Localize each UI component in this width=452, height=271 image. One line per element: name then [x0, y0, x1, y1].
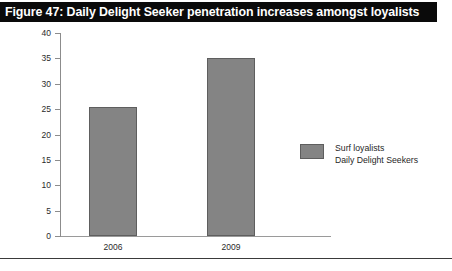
x-axis-label-2009: 2009: [201, 242, 261, 252]
y-axis-tick-label: 35: [0, 53, 51, 63]
figure-title-banner: Figure 47: Daily Delight Seeker penetrat…: [0, 2, 437, 22]
x-axis-line: [60, 236, 331, 237]
legend-swatch-surf-loyalists: [300, 144, 324, 159]
y-axis-tick: [55, 211, 61, 212]
y-axis-tick-label: 25: [0, 104, 51, 114]
y-axis-tick-label: 5: [0, 206, 51, 216]
y-axis-tick: [55, 160, 61, 161]
y-axis-tick-label: 40: [0, 28, 51, 38]
page-title: Figure 47: Daily Delight Seeker penetrat…: [0, 5, 419, 19]
bar-chart: 0510152025303540 20062009 Surf loyalists…: [0, 22, 452, 247]
legend-label-group: Surf loyalists Daily Delight Seekers: [335, 143, 418, 166]
bar-2009: [207, 58, 255, 236]
y-axis-tick-label: 20: [0, 130, 51, 140]
y-axis-tick: [55, 33, 61, 34]
x-axis-label-2006: 2006: [83, 242, 143, 252]
y-axis-tick-label: 15: [0, 155, 51, 165]
footer-divider: [0, 258, 452, 259]
y-axis-tick-label: 0: [0, 231, 51, 241]
y-axis-tick: [55, 135, 61, 136]
y-axis-tick: [55, 109, 61, 110]
chart-legend: Surf loyalists Daily Delight Seekers: [300, 143, 418, 166]
legend-label-line-2: Daily Delight Seekers: [335, 155, 418, 167]
y-axis-tick-label: 30: [0, 79, 51, 89]
y-axis-tick: [55, 236, 61, 237]
y-axis-tick-label: 10: [0, 180, 51, 190]
y-axis-tick: [55, 84, 61, 85]
y-axis-tick: [55, 58, 61, 59]
bar-2006: [89, 107, 137, 236]
legend-label-line-1: Surf loyalists: [335, 143, 418, 155]
y-axis-tick: [55, 185, 61, 186]
